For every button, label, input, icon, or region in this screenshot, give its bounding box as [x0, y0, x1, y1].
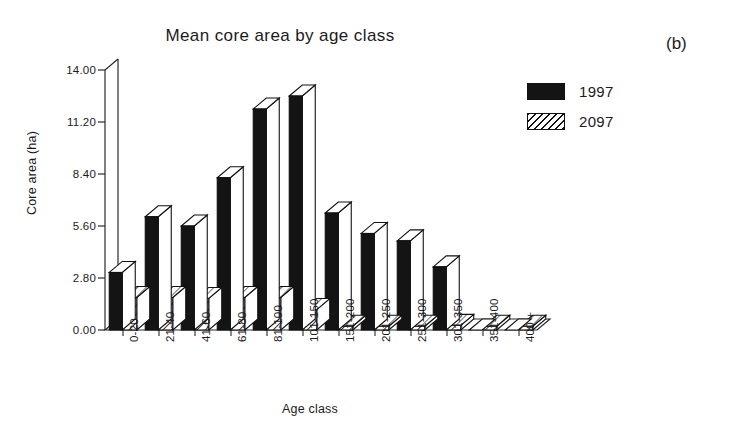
x-axis-title: Age class [100, 402, 520, 416]
x-tick-label: 251-300 [416, 298, 428, 342]
x-tick-label: 301-350 [452, 298, 464, 342]
x-tick-label: 0-20 [128, 318, 140, 342]
x-tick-label: 101-150 [308, 298, 320, 342]
x-tick-label: 201-250 [380, 298, 392, 342]
x-tick-label: 81-100 [272, 305, 284, 342]
x-tick-label: 400 + [524, 312, 536, 342]
chart-figure: Mean core area by age class (b) 1997 209… [0, 0, 735, 435]
x-tick-label: 151-200 [344, 298, 356, 342]
x-tick-label: 41-60 [200, 312, 212, 342]
x-axis-tick-labels: 400 +351-400301-350251-300201-250151-200… [0, 0, 735, 435]
x-tick-label: 351-400 [488, 298, 500, 342]
x-tick-label: 61-80 [236, 312, 248, 342]
x-tick-label: 21-40 [164, 312, 176, 342]
